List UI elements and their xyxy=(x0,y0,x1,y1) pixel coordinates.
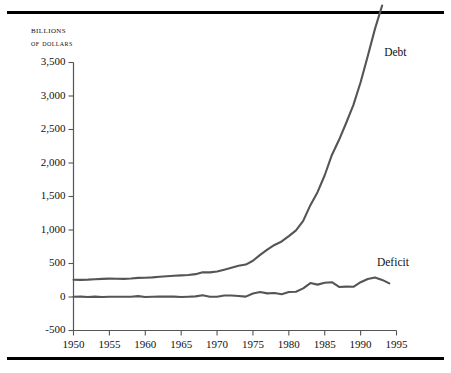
y-axis-tick-label: 500 xyxy=(22,256,66,268)
chart-figure: Billions of dollars 3,5003,0002,5002,000… xyxy=(0,0,451,373)
x-axis-ticks xyxy=(74,331,397,336)
x-axis-tick-label: 1960 xyxy=(125,338,165,350)
x-axis-tick-label: 1990 xyxy=(341,338,381,350)
x-axis-tick-label: 1985 xyxy=(305,338,345,350)
x-axis-tick-label: 1955 xyxy=(89,338,129,350)
data-series-group xyxy=(74,5,390,297)
y-axis-tick-label: 1,000 xyxy=(22,223,66,235)
y-axis-tick-label: 2,000 xyxy=(22,156,66,168)
series-label-deficit: Deficit xyxy=(377,256,409,268)
x-axis-tick-label: 1980 xyxy=(269,338,309,350)
y-axis-tick-label: -500 xyxy=(22,323,66,335)
x-axis-tick-label: 1975 xyxy=(233,338,273,350)
y-axis-tick-label: 3,500 xyxy=(22,55,66,67)
series-line-deficit xyxy=(74,278,390,297)
y-axis-tick-label: 0 xyxy=(22,290,66,302)
y-axis-tick-label: 3,000 xyxy=(22,89,66,101)
series-line-debt xyxy=(74,5,383,279)
series-label-debt: Debt xyxy=(384,46,406,58)
x-axis-tick-label: 1970 xyxy=(197,338,237,350)
y-axis-tick-label: 2,500 xyxy=(22,122,66,134)
x-axis-tick-label: 1950 xyxy=(54,338,94,350)
y-axis-tick-label: 1,500 xyxy=(22,189,66,201)
x-axis-tick-label: 1995 xyxy=(377,338,417,350)
x-axis-tick-label: 1965 xyxy=(161,338,201,350)
y-axis-ticks xyxy=(69,63,74,331)
